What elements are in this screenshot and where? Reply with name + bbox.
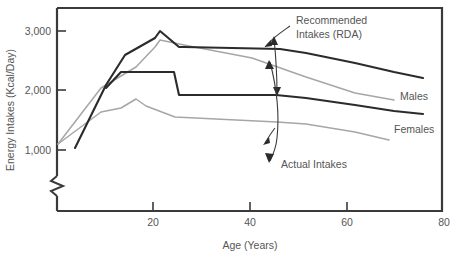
series-line-males-rda [75, 31, 423, 148]
actual-span-arrowhead-down-icon [265, 153, 274, 163]
x-tick-label-40: 40 [244, 216, 256, 228]
energy-intake-chart: 3,000 2,000 1,000 20 40 60 80 Age (Years… [0, 0, 457, 257]
y-tick-label-1000: 1,000 [25, 144, 51, 156]
x-axis-title: Age (Years) [222, 239, 277, 251]
x-axis-ticks [153, 202, 347, 211]
series-line-males-actual [58, 40, 394, 144]
y-axis-break-icon [51, 176, 63, 196]
series-line-females-actual [58, 99, 389, 144]
y-tick-label-2000: 2,000 [25, 84, 51, 96]
rda-annotation-line1: Recommended [296, 14, 367, 26]
y-tick-label-3000: 3,000 [25, 25, 51, 37]
series-label-males: Males [400, 90, 428, 102]
actual-leader-arrowhead-icon [263, 137, 270, 145]
y-axis-title: Energy Intakes (Kcal/Day) [4, 49, 16, 171]
x-tick-label-60: 60 [341, 216, 353, 228]
actual-annotation-label: Actual Intakes [281, 158, 347, 170]
chart-svg: 3,000 2,000 1,000 20 40 60 80 Age (Years… [0, 0, 457, 257]
series-label-females: Females [394, 123, 434, 135]
x-tick-label-80: 80 [438, 216, 450, 228]
series-line-females-rda [106, 72, 423, 114]
y-axis-ticks [57, 31, 66, 150]
x-tick-label-20: 20 [147, 216, 159, 228]
rda-annotation-line2: Intakes (RDA) [296, 28, 362, 40]
